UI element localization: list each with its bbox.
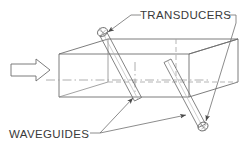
label-transducers: TRANSDUCERS — [140, 9, 231, 21]
duct-right-face — [189, 39, 238, 97]
duct-hidden-edges — [108, 39, 238, 82]
leader-transducers-right — [206, 15, 236, 121]
label-waveguides: WAVEGUIDES — [9, 128, 89, 140]
waveguide-rod-downstream — [164, 59, 206, 128]
duct-left-end-edge — [59, 39, 108, 97]
rectangular-duct — [59, 39, 238, 97]
diagram-canvas: TRANSDUCERS WAVEGUIDES — [0, 0, 249, 152]
duct-front-face — [59, 54, 189, 97]
transducer-head-lower-right — [196, 120, 209, 132]
duct-top-face — [59, 39, 238, 54]
leader-transducers-left — [108, 15, 141, 32]
leader-waveguides-lower — [100, 115, 186, 133]
technical-diagram: TRANSDUCERS WAVEGUIDES — [0, 0, 249, 152]
transducer-head-upper-left — [96, 26, 109, 38]
flow-direction-arrow — [11, 59, 50, 81]
